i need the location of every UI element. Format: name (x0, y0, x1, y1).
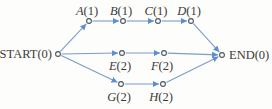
node-label-f: F(2) (150, 59, 173, 73)
edge-f-end (168, 53, 218, 55)
node-label-b: B(1) (110, 4, 132, 18)
node-label-c: C(1) (145, 4, 168, 18)
edge-d-end (193, 24, 219, 52)
edge-h-end (166, 57, 218, 83)
node-a (87, 19, 92, 24)
node-b (121, 19, 126, 24)
node-f (162, 51, 167, 56)
node-label-a: A(1) (75, 4, 98, 18)
node-label-start: START(0) (0, 47, 52, 61)
activity-network-diagram: START(0)A(1)B(1)C(1)D(1)E(2)F(2)G(2)H(2)… (0, 0, 272, 109)
edge-start-a (60, 24, 86, 51)
node-label-e: E(2) (108, 59, 131, 73)
node-h (161, 82, 166, 87)
node-label-h: H(2) (148, 90, 173, 104)
node-c (156, 19, 161, 24)
node-end (220, 53, 225, 58)
node-d (189, 19, 194, 24)
node-e (120, 51, 125, 56)
diagram-svg: START(0)A(1)B(1)C(1)D(1)E(2)F(2)G(2)H(2)… (0, 0, 272, 109)
node-label-d: D(1) (176, 4, 201, 18)
node-start (56, 52, 61, 57)
node-label-end: END(0) (229, 48, 269, 62)
node-g (119, 82, 124, 87)
node-label-g: G(2) (107, 90, 131, 104)
edge-start-e (62, 53, 118, 54)
